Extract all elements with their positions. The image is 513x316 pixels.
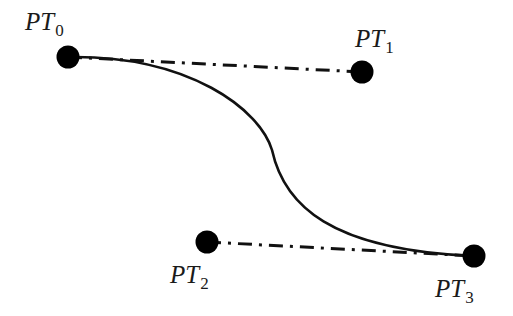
control-line-pt2-pt3 — [207, 242, 474, 256]
bezier-curve — [68, 57, 474, 256]
point-label-pt1: PT1 — [354, 25, 394, 57]
control-line-pt0-pt1 — [68, 57, 362, 72]
point-label-pt2: PT2 — [169, 261, 209, 293]
point-label-pt0: PT0 — [24, 8, 64, 40]
control-point-pt1 — [351, 61, 374, 84]
point-label-pt3: PT3 — [434, 275, 474, 307]
bezier-diagram: PT0PT1PT2PT3 — [0, 0, 513, 316]
control-point-pt2 — [196, 231, 219, 254]
control-point-pt0 — [57, 46, 80, 69]
control-point-pt3 — [463, 245, 486, 268]
